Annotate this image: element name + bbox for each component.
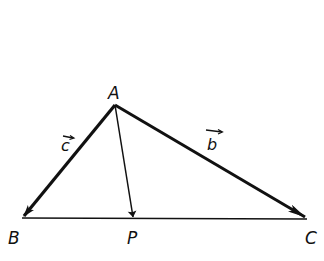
vector-triangle-diagram: A B P C c b: [0, 0, 324, 261]
vector-b-arrow: [115, 105, 305, 217]
svg-text:b: b: [207, 135, 217, 154]
point-label-p: P: [127, 228, 138, 248]
point-label-a: A: [107, 83, 120, 103]
segment-bc: [22, 218, 307, 219]
vector-c-label: c: [61, 136, 74, 156]
vector-b-label: b: [206, 130, 223, 155]
vector-ap-arrow: [115, 105, 133, 217]
vector-c-arrow: [24, 105, 115, 216]
svg-text:c: c: [61, 136, 70, 155]
point-label-b: B: [8, 228, 20, 248]
point-label-c: C: [305, 228, 317, 248]
